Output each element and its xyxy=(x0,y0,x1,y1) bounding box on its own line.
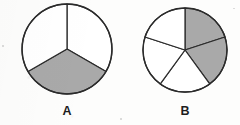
scan-speck xyxy=(233,8,235,9)
scan-speck xyxy=(2,45,4,47)
pie-chart-a-label: A xyxy=(47,105,87,118)
scan-speck xyxy=(120,118,122,120)
pie-chart-b xyxy=(143,8,227,92)
pie-chart-figure: A B xyxy=(0,0,240,125)
pie-chart-b-label: B xyxy=(165,105,205,118)
pie-chart-a xyxy=(22,4,112,94)
